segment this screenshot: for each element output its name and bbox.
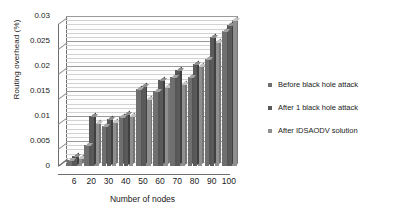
- bar-series-container: [66, 16, 238, 166]
- bar-side: [214, 34, 216, 165]
- bar-side: [175, 74, 177, 165]
- bar: [67, 160, 72, 167]
- bar-top: [108, 117, 115, 120]
- bar-side: [111, 115, 113, 164]
- bar-group: [222, 16, 239, 166]
- bar-group: [102, 16, 119, 166]
- bar-side: [123, 114, 125, 165]
- y-tick-label: 0.02: [16, 62, 50, 70]
- legend-swatch: [268, 83, 272, 87]
- y-tick-label: 0.01: [16, 112, 50, 120]
- bar-group: [84, 16, 101, 166]
- bar: [205, 59, 210, 167]
- bar-top: [74, 154, 81, 157]
- bar-group: [153, 16, 170, 166]
- legend-label: Before black hole attack: [278, 80, 358, 89]
- bar-side: [163, 77, 165, 165]
- bar-face: [153, 91, 158, 166]
- bar: [84, 145, 89, 167]
- bar: [119, 117, 124, 166]
- chart-floor: [58, 166, 238, 174]
- bar-group: [188, 16, 205, 166]
- bar-face: [222, 31, 227, 166]
- legend-item: After IDSAODV solution: [268, 126, 394, 135]
- bar-side: [94, 112, 96, 164]
- bar-group: [136, 16, 153, 166]
- legend-item: Before black hole attack: [268, 80, 394, 89]
- bar-group: [205, 16, 222, 166]
- bar: [136, 89, 141, 167]
- x-axis-title: Number of nodes: [55, 194, 230, 204]
- bar: [170, 77, 175, 166]
- bar-side: [209, 55, 211, 164]
- legend-label: After IDSAODV solution: [278, 126, 358, 135]
- bar-side: [180, 67, 182, 165]
- bar-group: [67, 16, 84, 166]
- bar-side: [106, 123, 108, 165]
- bar-side: [158, 88, 160, 165]
- chart-legend: Before black hole attackAfter 1 black ho…: [268, 80, 394, 149]
- bar-side: [128, 110, 130, 164]
- legend-label: After 1 black hole attack: [278, 103, 358, 112]
- bar-face: [136, 89, 141, 167]
- legend-swatch: [268, 129, 272, 133]
- bar-group: [170, 16, 187, 166]
- bar-face: [188, 77, 193, 166]
- bar-top: [211, 35, 218, 38]
- y-axis-tick-labels: 00.0050.010.0150.020.0250.03: [16, 0, 50, 215]
- plot-area: [58, 16, 238, 174]
- bar-top: [233, 18, 240, 21]
- bar-side: [192, 74, 194, 165]
- bar-top: [69, 158, 76, 161]
- bar-top: [91, 114, 98, 117]
- y-tick-label: 0.005: [16, 137, 50, 145]
- bar: [102, 126, 107, 166]
- bar-side: [197, 60, 199, 164]
- bar-top: [177, 68, 184, 71]
- bar: [188, 77, 193, 166]
- y-tick-label: 0.025: [16, 37, 50, 45]
- x-tick-label: 100: [218, 176, 240, 186]
- bar: [222, 31, 227, 166]
- x-axis-tick-labels: 62030405060708090100: [58, 176, 248, 190]
- bar-side: [236, 16, 238, 164]
- bar: [153, 91, 158, 166]
- bar-face: [205, 59, 210, 167]
- bar-face: [84, 145, 89, 167]
- bar-face: [102, 126, 107, 166]
- bar-face: [170, 77, 175, 166]
- bar-face: [119, 117, 124, 166]
- bar-group: [119, 16, 136, 166]
- legend-item: After 1 black hole attack: [268, 103, 394, 112]
- y-tick-label: 0: [16, 162, 50, 170]
- y-tick-label: 0.015: [16, 87, 50, 95]
- legend-swatch: [268, 106, 272, 110]
- y-tick-label: 0.03: [16, 12, 50, 20]
- routing-overhead-bar-chart: Routing overhead (%) 00.0050.010.0150.02…: [0, 0, 397, 215]
